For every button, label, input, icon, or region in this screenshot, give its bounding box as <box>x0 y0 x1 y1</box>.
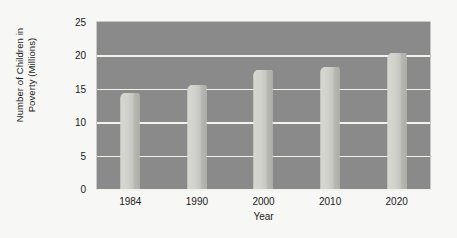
bar[interactable] <box>254 70 273 189</box>
y-axis-title: Number of Children in Poverty (Millions) <box>14 0 48 150</box>
bar-series <box>97 22 430 189</box>
x-axis-tick-label: 2020 <box>386 196 408 207</box>
y-axis-tick-label: 5 <box>48 150 92 161</box>
bar[interactable] <box>387 53 406 189</box>
bar-slot <box>297 22 364 189</box>
bar-face <box>121 93 134 189</box>
x-axis-tick-label: 1984 <box>119 196 141 207</box>
bar-slot <box>164 22 231 189</box>
bar-side-shadow <box>334 67 340 189</box>
bar-slot <box>97 22 164 189</box>
x-axis-tick-labels: 19841990200020102020 <box>97 196 430 212</box>
bar-side-shadow <box>267 70 273 189</box>
bar-face <box>187 85 200 189</box>
bar[interactable] <box>187 85 206 189</box>
bar-side-shadow <box>400 53 406 189</box>
gridline <box>97 189 430 191</box>
y-axis-tick-label: 10 <box>48 117 92 128</box>
x-axis-tick-label: 2010 <box>319 196 341 207</box>
plot-area <box>97 22 430 189</box>
bar-side-shadow <box>134 93 140 189</box>
bar[interactable] <box>321 67 340 189</box>
y-axis-title-line-1: Number of Children in <box>14 0 26 150</box>
x-axis-title: Year <box>97 211 430 222</box>
bar-slot <box>363 22 430 189</box>
x-axis-tick-label: 1990 <box>186 196 208 207</box>
y-axis-tick-label: 0 <box>48 184 92 195</box>
y-axis-tick-label: 15 <box>48 83 92 94</box>
x-axis-tick-label: 2000 <box>252 196 274 207</box>
bar-side-shadow <box>200 85 206 189</box>
bar-face <box>321 67 334 189</box>
bar-chart-figure: Number of Children in Poverty (Millions)… <box>0 0 457 238</box>
bar-face <box>387 53 400 189</box>
y-axis-tick-labels: 0510152025 <box>48 0 92 238</box>
bar-slot <box>230 22 297 189</box>
bar-face <box>254 70 267 189</box>
y-axis-tick-label: 25 <box>48 17 92 28</box>
y-axis-tick-label: 20 <box>48 50 92 61</box>
y-axis-title-line-2: Poverty (Millions) <box>26 0 38 150</box>
bar[interactable] <box>121 93 140 189</box>
